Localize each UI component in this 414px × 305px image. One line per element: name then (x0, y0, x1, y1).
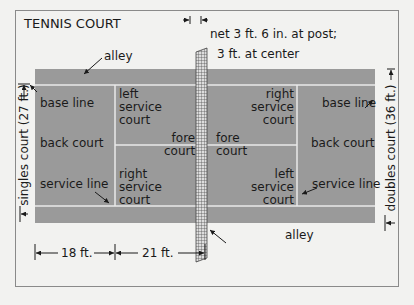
back-court-right: back court (311, 137, 375, 150)
right-service-court-left: rightservicecourt (119, 168, 162, 207)
left-service-court-right: leftservicecourt (251, 168, 294, 207)
diagram-title: TENNIS COURT (24, 17, 121, 30)
fore-court-right: forecourt (216, 132, 247, 158)
net (196, 48, 207, 262)
alley-label-bottom: alley (285, 229, 314, 242)
back-length-dimension: 18 ft. (61, 247, 93, 260)
fore-court-left: forecourt (164, 132, 195, 158)
left-service-court-left: leftservicecourt (119, 88, 162, 127)
net-label-1: net 3 ft. 6 in. at post; (210, 28, 337, 41)
alley-bottom-arrow (210, 230, 226, 243)
doubles-dimension: doubles court (36 ft.) (385, 85, 398, 212)
service-length-dimension: 21 ft. (142, 247, 174, 260)
right-service-court-right: rightservicecourt (251, 88, 294, 127)
base-line-right: base line (322, 97, 376, 110)
service-line-right-label: service line (312, 178, 380, 191)
service-line-left-label: service line (40, 178, 108, 191)
net-label-2: 3 ft. at center (217, 48, 299, 61)
singles-dimension: singles court (27 ft.) (18, 84, 31, 206)
back-court-left: back court (40, 137, 104, 150)
base-line-left: base line (40, 97, 94, 110)
alley-label-top: alley (104, 50, 133, 63)
